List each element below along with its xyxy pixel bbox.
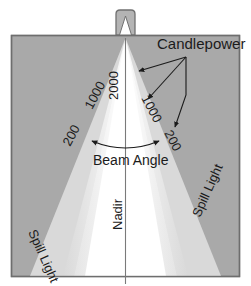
diagram-canvas: Candlepower 2000 1000 200 1000 200 Beam … xyxy=(0,0,251,286)
candlepower-label: Candlepower xyxy=(157,35,245,52)
luminaire-fixture xyxy=(116,10,135,35)
beam-angle-label: Beam Angle xyxy=(93,152,169,168)
beam-distribution-figure: Candlepower 2000 1000 200 1000 200 Beam … xyxy=(0,0,251,286)
nadir-label: Nadir xyxy=(110,198,125,230)
contour-label-2000-center: 2000 xyxy=(106,71,121,100)
